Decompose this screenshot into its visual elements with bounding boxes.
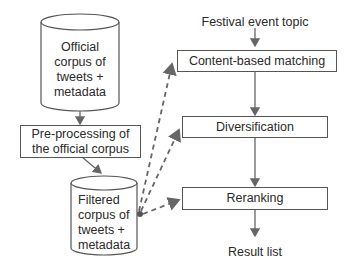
- dashed-arrow-to-matching: [139, 64, 172, 211]
- topic-label: Festival event topic: [195, 15, 315, 30]
- dashed-arrow-to-diversification: [141, 130, 179, 211]
- content-matching-box: Content-based matching: [177, 50, 337, 72]
- result-list-label: Result list: [215, 245, 295, 260]
- reranking-box: Reranking: [182, 187, 328, 210]
- dashed-arrow-to-reranking: [143, 200, 179, 214]
- official-corpus-label: Official corpus of tweets + metadata: [41, 40, 119, 100]
- diversification-box: Diversification: [182, 116, 328, 138]
- arrow-preprocessing-to-filtered: [82, 157, 101, 173]
- preprocessing-box: Pre-processing of the official corpus: [20, 125, 141, 158]
- filtered-corpus-label: Filtered corpus of tweets + metadata: [72, 193, 138, 253]
